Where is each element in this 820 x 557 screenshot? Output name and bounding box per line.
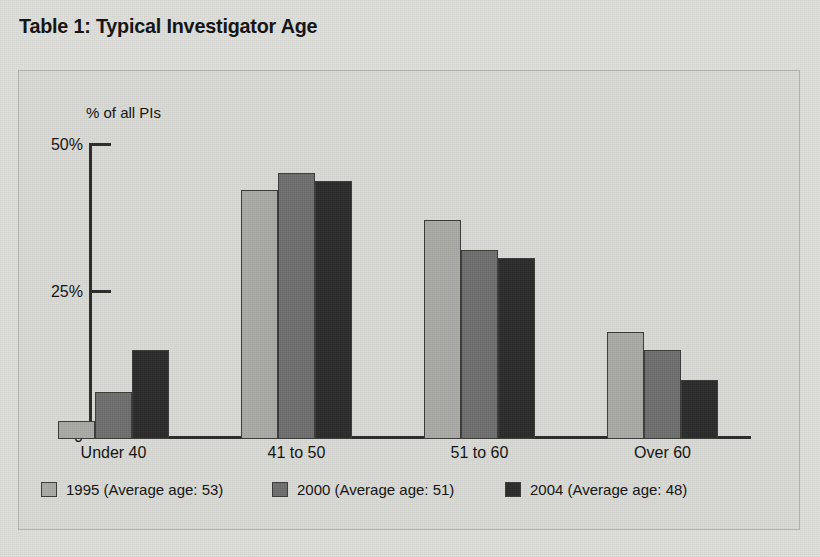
bar[interactable] xyxy=(95,392,132,439)
page-title: Table 1: Typical Investigator Age xyxy=(19,14,317,38)
x-axis-tick-label: Over 60 xyxy=(585,444,740,462)
bar[interactable] xyxy=(241,190,278,439)
bar-group xyxy=(241,143,352,439)
bar[interactable] xyxy=(424,220,461,439)
bar[interactable] xyxy=(58,421,95,439)
bar[interactable] xyxy=(315,181,352,439)
y-axis-label: % of all PIs xyxy=(86,104,161,121)
legend-label: 1995 (Average age: 53) xyxy=(66,481,223,498)
x-axis-tick-label: 51 to 60 xyxy=(402,444,557,462)
bar-group xyxy=(424,143,535,439)
legend-swatch-icon xyxy=(272,482,288,497)
bar[interactable] xyxy=(278,173,315,439)
bar[interactable] xyxy=(498,258,535,439)
legend-swatch-icon xyxy=(505,482,521,497)
bar[interactable] xyxy=(607,332,644,439)
bar-chart: % of all PIs 50% 25% 0 Under 4041 to 505… xyxy=(19,71,801,531)
legend-item[interactable]: 2004 (Average age: 48) xyxy=(505,481,687,498)
chart-legend: 1995 (Average age: 53)2000 (Average age:… xyxy=(19,475,801,515)
legend-label: 2004 (Average age: 48) xyxy=(530,481,687,498)
bar-group xyxy=(607,143,718,439)
x-axis-tick-label: 41 to 50 xyxy=(219,444,374,462)
bar[interactable] xyxy=(644,350,681,439)
x-axis-tick-label: Under 40 xyxy=(36,444,191,462)
legend-label: 2000 (Average age: 51) xyxy=(297,481,454,498)
bar[interactable] xyxy=(132,350,169,439)
legend-swatch-icon xyxy=(41,482,57,497)
chart-panel: % of all PIs 50% 25% 0 Under 4041 to 505… xyxy=(18,70,800,530)
bar[interactable] xyxy=(681,380,718,439)
legend-item[interactable]: 1995 (Average age: 53) xyxy=(41,481,223,498)
bar-group xyxy=(58,143,169,439)
bar[interactable] xyxy=(461,250,498,439)
legend-item[interactable]: 2000 (Average age: 51) xyxy=(272,481,454,498)
